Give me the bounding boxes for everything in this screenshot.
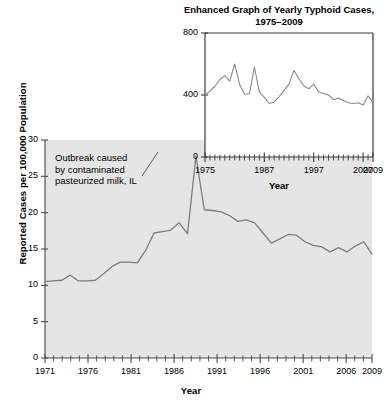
inset-y-tick-label: 800: [176, 27, 198, 37]
inset-y-tick-label: 0: [176, 151, 198, 161]
inset-x-tick-label: 1997: [301, 165, 327, 175]
main-y-tick-label: 25: [28, 170, 38, 180]
outbreak-annotation: Outbreak caused by contaminated pasteuri…: [55, 152, 137, 187]
annotation-line-1: Outbreak caused: [55, 152, 137, 164]
inset-chart: Enhanced Graph of Yearly Typhoid Cases, …: [176, 0, 382, 200]
main-y-tick-label: 10: [28, 279, 38, 289]
annotation-line-2: by contaminated: [55, 164, 137, 176]
main-x-tick-label: 1971: [32, 366, 58, 376]
main-y-tick-label: 0: [33, 352, 38, 362]
main-x-tick-label: 1981: [118, 366, 144, 376]
main-x-tick-label: 1991: [204, 366, 230, 376]
inset-y-tick-label: 400: [176, 89, 198, 99]
main-x-tick-label: 2006: [333, 366, 359, 376]
annotation-line-3: pasteurized milk, IL: [55, 175, 137, 187]
inset-x-tick-label: 1987: [251, 165, 277, 175]
inset-x-axis-label: Year: [176, 180, 382, 191]
main-y-tick-label: 30: [28, 134, 38, 144]
main-y-axis-label: Reported Cases per 100,000 Population: [17, 64, 28, 284]
main-x-tick-label: 1986: [161, 366, 187, 376]
main-x-tick-label: 2001: [290, 366, 316, 376]
main-x-axis-label: Year: [0, 385, 382, 396]
main-x-tick-label: 1976: [75, 366, 101, 376]
main-x-tick-label: 1996: [247, 366, 273, 376]
main-x-tick-label: 2009: [359, 366, 385, 376]
main-y-tick-label: 15: [28, 243, 38, 253]
main-y-tick-label: 5: [33, 316, 38, 326]
inset-plot-background: [205, 33, 373, 157]
main-y-tick-label: 20: [28, 207, 38, 217]
inset-x-tick-label: 2009: [360, 165, 386, 175]
inset-x-tick-label: 1975: [192, 165, 218, 175]
